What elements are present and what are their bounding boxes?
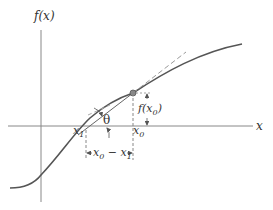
- y-axis-label: f(x): [33, 9, 55, 23]
- function-curve: [10, 44, 242, 188]
- diff-label: x0 − x1: [93, 146, 132, 161]
- tangent-extension-dashed: [133, 52, 186, 93]
- theta-arc-arrow-lower: [107, 128, 109, 138]
- theta-label: θ: [103, 113, 110, 127]
- x-axis-label: x: [256, 119, 263, 133]
- fx0-label: f(x0): [137, 102, 162, 117]
- newton-method-diagram: f(x0) x0 − x1 θ f(x) x x1 x0: [0, 0, 273, 210]
